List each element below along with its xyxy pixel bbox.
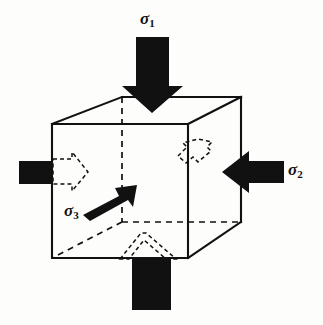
cube-visible-edges: [52, 97, 241, 258]
cube-edge-bottom-right-diagonal: [188, 222, 241, 258]
cube-edge-top-left-diagonal: [52, 97, 122, 124]
sigma2-subscript: 2: [297, 168, 303, 180]
sigma1-reaction-block-icon: [132, 258, 171, 310]
bottom-face-expansion-arrow-icon: [120, 233, 176, 259]
cube-hidden-edges: [52, 97, 241, 258]
sigma3-subscript: 3: [73, 209, 79, 221]
back-face-expansion-arrow-icon: [178, 139, 212, 163]
stress-cube-diagram: [0, 0, 323, 325]
sigma3-label: σ3: [64, 202, 79, 221]
sigma3-symbol: σ: [64, 201, 73, 220]
sigma2-arrow-icon: [222, 151, 284, 193]
sigma1-label: σ1: [140, 10, 155, 29]
stress-cube-figure: σ1 σ2 σ3: [0, 0, 323, 325]
sigma3-arrow-icon: [83, 185, 137, 221]
left-face-expansion-arrow-icon: [53, 152, 88, 191]
hidden-edge-bottom-left-diagonal: [52, 222, 122, 258]
sigma2-symbol: σ: [288, 160, 297, 179]
sigma2-label: σ2: [288, 161, 303, 180]
sigma1-subscript: 1: [149, 17, 155, 29]
cube-edge-top-right-diagonal: [188, 97, 241, 124]
sigma1-arrow-icon: [122, 37, 183, 113]
sigma2-reaction-block-icon: [19, 161, 53, 184]
sigma1-symbol: σ: [140, 9, 149, 28]
